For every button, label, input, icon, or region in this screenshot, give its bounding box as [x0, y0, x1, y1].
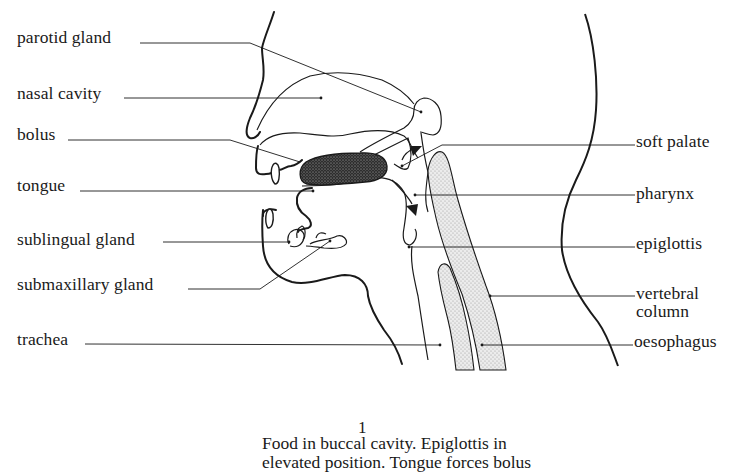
label-nasal-cavity: nasal cavity — [17, 84, 101, 102]
pharynx-wall — [426, 172, 428, 212]
caption-line-1: Food in buccal cavity. Epiglottis in — [262, 434, 507, 453]
label-epiglottis: epiglottis — [636, 234, 702, 252]
leader-lines — [68, 43, 635, 345]
back-of-neck-outline — [562, 14, 618, 366]
label-trachea: trachea — [17, 330, 68, 348]
label-oesophagus: oesophagus — [634, 332, 717, 350]
label-parotid-gland: parotid gland — [17, 28, 111, 46]
label-bolus: bolus — [17, 125, 55, 143]
label-column: column — [636, 302, 689, 320]
label-submaxillary-gland: submaxillary gland — [17, 275, 153, 293]
tongue-outline — [288, 178, 428, 360]
label-soft-palate: soft palate — [636, 132, 710, 150]
diagram-canvas: parotid gland nasal cavity bolus tongue … — [0, 0, 739, 474]
label-pharynx: pharynx — [636, 184, 694, 202]
caption-line-2: elevated position. Tongue forces bolus — [262, 453, 531, 472]
label-vertebral: vertebral — [636, 284, 699, 302]
face-profile-outline — [247, 12, 402, 364]
label-sublingual-gland: sublingual gland — [17, 230, 135, 248]
label-tongue: tongue — [17, 176, 65, 194]
bolus-shape — [300, 153, 387, 185]
